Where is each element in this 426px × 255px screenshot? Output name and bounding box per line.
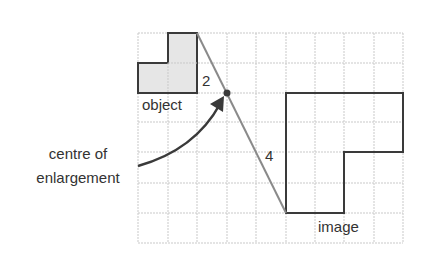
arrow-curve xyxy=(138,104,220,166)
centre-point xyxy=(224,90,231,97)
distance-object-label: 2 xyxy=(202,72,210,89)
distance-image-label: 4 xyxy=(265,147,273,164)
centre-label-line2: enlargement xyxy=(36,169,120,186)
centre-label-line1: centre of xyxy=(49,145,108,162)
image-label: image xyxy=(318,218,359,235)
object-label: object xyxy=(142,96,183,113)
ray-line xyxy=(197,33,286,213)
enlargement-diagram: object image 2 4 centre of enlargement xyxy=(0,0,426,255)
